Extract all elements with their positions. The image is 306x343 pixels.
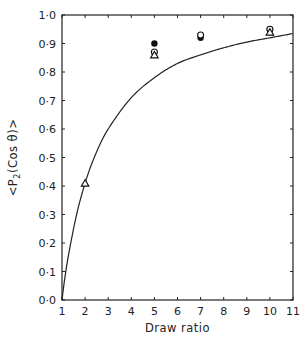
fitted-curve xyxy=(62,34,293,300)
x-axis-label: Draw ratio xyxy=(145,321,210,335)
x-tick-label: 2 xyxy=(82,305,89,318)
y-tick-label: 0·3 xyxy=(39,209,57,222)
y-tick-label: 0·5 xyxy=(39,152,57,165)
plot-frame xyxy=(62,15,293,300)
x-tick-label: 8 xyxy=(220,305,227,318)
y-tick-label: 0·4 xyxy=(39,180,57,193)
y-tick-label: 0·7 xyxy=(39,95,57,108)
x-tick-label: 1 xyxy=(59,305,66,318)
y-tick-label: 0·6 xyxy=(39,123,57,136)
x-tick-label: 6 xyxy=(174,305,181,318)
data-point-open-circle xyxy=(198,32,204,38)
data-point-filled-circle xyxy=(151,40,157,46)
y-tick-label: 0·2 xyxy=(39,237,57,250)
y-tick-label: 0·9 xyxy=(39,38,57,51)
x-tick-label: 9 xyxy=(243,305,250,318)
x-tick-label: 4 xyxy=(128,305,135,318)
data-point-open-triangle xyxy=(81,180,89,187)
y-tick-label: 0·0 xyxy=(39,294,57,307)
y-tick-label: 1·0 xyxy=(39,9,57,22)
x-tick-label: 3 xyxy=(105,305,112,318)
y-tick-label: 0·8 xyxy=(39,66,57,79)
x-tick-label: 11 xyxy=(286,305,300,318)
y-tick-label: 0·1 xyxy=(39,266,57,279)
y-axis-label: <P2(Cos θ)> xyxy=(6,119,22,197)
x-tick-label: 10 xyxy=(263,305,277,318)
chart: 12345678910110·00·10·20·30·40·50·60·70·8… xyxy=(0,0,306,343)
x-tick-label: 5 xyxy=(151,305,158,318)
x-tick-label: 7 xyxy=(197,305,204,318)
